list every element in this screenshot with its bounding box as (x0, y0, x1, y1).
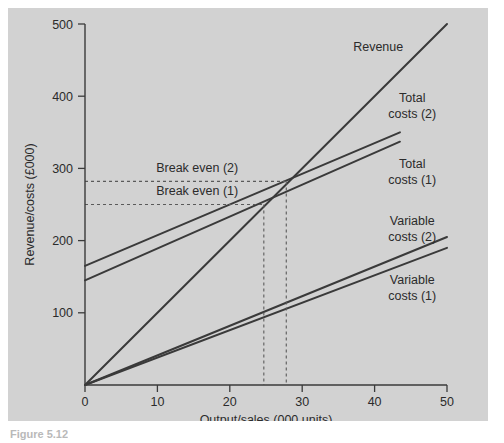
x-tick-label: 30 (295, 395, 309, 409)
series-line-variable-costs-2 (85, 237, 447, 385)
series-label-revenue: Revenue (353, 40, 403, 54)
series-label-variable-costs-1: Variable (390, 273, 435, 287)
y-tick-label: 400 (52, 90, 73, 104)
series-line-total-costs-1 (85, 142, 400, 281)
break-even-1-label: Break even (1) (156, 184, 238, 198)
y-tick-label: 100 (52, 306, 73, 320)
y-tick-label: 200 (52, 234, 73, 248)
y-tick-label: 500 (52, 18, 73, 32)
series-label-variable-costs-1-line2: costs (1) (388, 289, 436, 303)
chart-panel: 10020030040050001020304050 RevenueTotalc… (8, 8, 488, 421)
break-even-2-label: Break even (2) (156, 161, 238, 175)
x-tick-label: 10 (150, 395, 164, 409)
figure-caption: Figure 5.12 (10, 428, 68, 443)
y-tick-label: 300 (52, 162, 73, 176)
x-axis-title: Output/sales (000 units) (200, 413, 333, 421)
figure-root: 10020030040050001020304050 RevenueTotalc… (0, 0, 504, 443)
series-line-variable-costs-1 (85, 248, 447, 385)
series-label-variable-costs-2-line2: costs (2) (388, 230, 436, 244)
annotations-group: Break even (2)Break even (1) (156, 161, 238, 198)
x-tick-label: 50 (440, 395, 454, 409)
x-tick-label: 40 (368, 395, 382, 409)
series-line-total-costs-2 (85, 132, 400, 266)
series-label-total-costs-2-line2: costs (2) (388, 107, 436, 121)
breakeven-chart: 10020030040050001020304050 RevenueTotalc… (8, 8, 488, 421)
series-label-total-costs-1: Total (399, 157, 425, 171)
x-tick-label: 20 (223, 395, 237, 409)
x-tick-label: 0 (82, 395, 89, 409)
series-label-total-costs-2: Total (399, 91, 425, 105)
series-label-variable-costs-2: Variable (390, 214, 435, 228)
y-axis-title: Revenue/costs (£000) (23, 143, 37, 265)
series-label-total-costs-1-line2: costs (1) (388, 173, 436, 187)
series-labels-group: RevenueTotalcosts (2)Totalcosts (1)Varia… (353, 40, 436, 302)
